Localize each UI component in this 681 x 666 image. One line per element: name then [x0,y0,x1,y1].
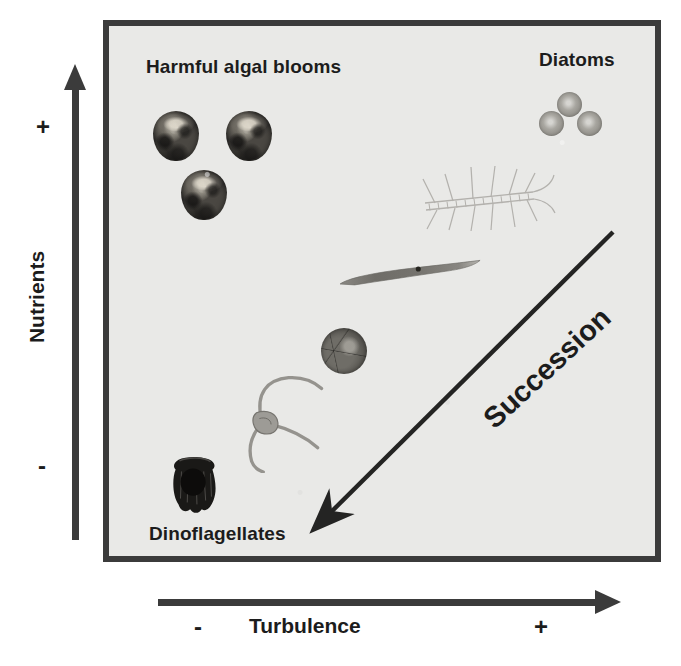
figure-canvas: Harmful algal blooms Diatoms Dinoflagell… [0,0,681,666]
turbulence-axis: - Turbulence + [0,575,681,666]
diatom-sphere [577,111,602,136]
nutrients-axis-high-tick: + [36,113,50,141]
harmful-algal-bloom-cell [181,170,227,220]
pennate-diatom-icon [331,254,491,294]
diatom-sphere [557,92,582,117]
harmful-algal-bloom-cell [226,111,272,161]
diatom-sphere [539,111,564,136]
turbulence-axis-high-tick: + [534,613,548,641]
ceratium-dinoflagellate-icon [211,368,336,473]
turbulence-axis-line [158,599,598,606]
turbulence-axis-arrowhead [595,590,621,614]
nutrients-axis-low-tick: - [38,452,46,480]
plot-area: Harmful algal blooms Diatoms Dinoflagell… [103,20,661,562]
nutrients-axis: + Nutrients - [0,0,110,666]
turbulence-axis-low-tick: - [194,613,202,641]
nutrients-axis-title: Nutrients [25,237,49,357]
turbulence-axis-title: Turbulence [249,614,361,638]
label-dinoflagellates: Dinoflagellates [149,523,286,545]
chain-diatom-icon [421,161,556,231]
label-succession: Succession [477,301,617,435]
label-diatoms: Diatoms [539,49,615,71]
dinophysis-dinoflagellate-icon [166,454,224,516]
label-harmful-algal-blooms: Harmful algal blooms [146,56,341,78]
nutrients-axis-line [72,85,79,540]
harmful-algal-bloom-cell [153,111,199,161]
